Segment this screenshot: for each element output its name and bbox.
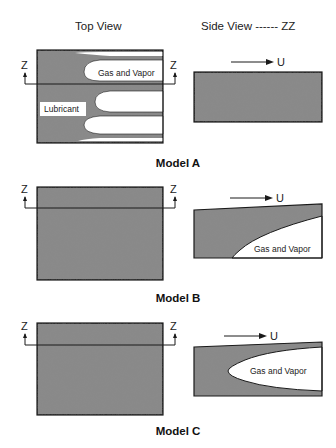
model-a-side-view: U (194, 56, 322, 122)
model-a-title: Model A (156, 157, 200, 169)
model-b-top-view: Z Z (21, 183, 177, 280)
velocity-arrow-icon (259, 333, 267, 339)
side-view-header: Side View ------ ZZ (201, 20, 295, 32)
gas-vapor-label: Gas and Vapor (250, 366, 307, 376)
model-b-title: Model B (156, 292, 201, 304)
model-a-top-view: Lubricant Gas and Vapor Z Z (21, 50, 177, 143)
velocity-arrow-icon (266, 59, 274, 65)
top-view-header: Top View (75, 20, 121, 32)
model-b-side-view: U Gas and Vapor (194, 192, 322, 258)
gas-vapor-label: Gas and Vapor (254, 244, 311, 254)
lubricant-label: Lubricant (44, 104, 80, 114)
model-c-title: Model C (156, 425, 201, 437)
model-c-side-view: U Gas and Vapor (194, 330, 322, 396)
velocity-label: U (270, 330, 278, 342)
velocity-label: U (276, 192, 284, 204)
section-marker-z-right: Z (170, 183, 177, 195)
gas-finger-3 (95, 91, 163, 112)
gas-finger-4 (84, 116, 163, 134)
velocity-arrow-icon (265, 195, 273, 201)
section-marker-z-left: Z (21, 183, 28, 195)
section-marker-z-left: Z (21, 59, 28, 71)
velocity-label: U (277, 56, 285, 68)
section-marker-z-right: Z (170, 59, 177, 71)
section-marker-z-left: Z (21, 320, 28, 332)
model-c-top-view: Z Z (21, 320, 177, 415)
section-marker-z-right: Z (170, 320, 177, 332)
gas-vapor-label: Gas and Vapor (98, 68, 155, 78)
cavitation-models-diagram: Lubricant Gas and Vapor Z Z U Z Z U Gas … (0, 0, 336, 448)
